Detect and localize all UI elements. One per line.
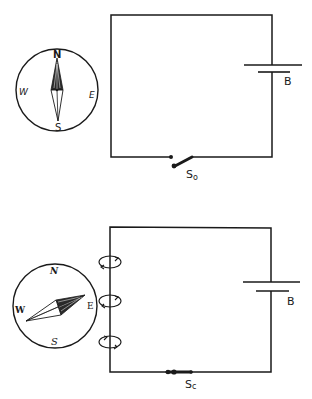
top-compass-north-label: N [53,49,61,60]
bottom-compass-west-label: W [14,305,26,315]
top-switch-label: So [186,168,198,182]
bottom-compass-east-label: E [87,301,94,311]
bottom-battery-label: B [287,295,295,308]
top-circuit-wire [111,15,272,157]
bottom-circuit-wire [110,227,271,372]
top-open-switch-icon [169,155,192,168]
top-battery-label: B [284,75,292,88]
bottom-battery-icon [243,282,300,291]
bottom-switch-label: Sc [185,378,196,391]
bottom-panel: B Sc [13,227,300,391]
top-compass-east-label: E [89,90,95,100]
bottom-compass-south-label: S [51,336,58,347]
top-compass-south-label: S [55,122,61,133]
top-compass-west-label: W [19,87,29,97]
top-battery-icon [244,65,302,72]
circuit-compass-diagram: B So N S W E [0,0,312,399]
bottom-compass-north-label: N [49,266,59,276]
bottom-closed-switch-icon [166,369,193,374]
top-compass-icon [16,49,98,131]
top-panel: B So N S W E [16,15,302,182]
